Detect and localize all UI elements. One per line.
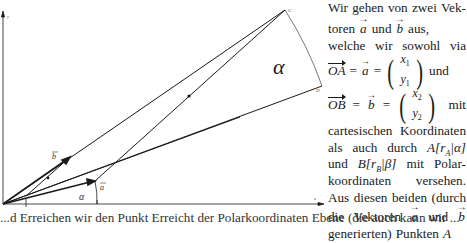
coordinate-axes: [2, 11, 325, 206]
point-c-label: C: [288, 8, 292, 13]
vector-diagram: y x α α C D a b: [0, 0, 330, 219]
right-paren: ): [428, 89, 435, 123]
vector-b-label: b: [52, 152, 56, 161]
vector-ob-symbol: OB: [328, 97, 346, 114]
point-a-polar: A[rA|α]: [427, 140, 466, 157]
marker-points: [47, 94, 191, 179]
body-text-column: Wir gehen von zwei Vek- toren a und b au…: [328, 0, 466, 243]
equation-ob: OB = b = ( x2 y2 ) mit: [328, 89, 466, 123]
midpoint-marker: [187, 94, 190, 97]
text-line-cartesian: cartesischen Koordinaten: [328, 123, 466, 140]
construction-lines: [3, 10, 322, 204]
vector-a: [3, 182, 90, 204]
line-small-to-b-tip: [26, 157, 70, 196]
y-axis-label: y: [6, 14, 10, 19]
vector-a-label: a: [100, 183, 104, 192]
small-midpoint-marker: [47, 177, 50, 180]
vector-b-symbol: b: [395, 21, 404, 38]
angle-alpha-small-label: α: [79, 191, 85, 202]
vector-a-arrowhead-icon: [87, 179, 95, 185]
left-paren: (: [399, 89, 406, 123]
vector-oa-symbol: OA: [328, 63, 346, 80]
left-paren: (: [387, 55, 394, 89]
small-angle-arc: [95, 181, 97, 204]
y-axis-arrow-icon: [2, 11, 5, 17]
text-line-aus: Aus diesen beiden (durch: [328, 190, 466, 207]
text-line-polar-b: und B[rB|β] mit Polar-: [328, 156, 466, 173]
text-line-polar-a: als auch durch A[rA|α]: [328, 140, 466, 157]
text-line-3: welche wir sowohl via: [328, 38, 466, 55]
big-angle-arc: [285, 10, 322, 86]
point-d-label: D: [315, 88, 320, 93]
angle-alpha-label: α: [273, 54, 285, 79]
equation-oa: OA = a = ( x1 y1 ) und: [328, 55, 466, 89]
x-axis-arrow-icon: [318, 203, 324, 206]
line-origin-to-right: [3, 117, 240, 204]
x-axis-ticks: [26, 199, 97, 207]
vector-b: [3, 160, 66, 204]
column-vector-b: x2 y2: [412, 86, 421, 125]
point-b-polar: B[rB|β]: [358, 156, 397, 173]
cut-off-text-line: ...d Erreichen wir den Punkt Erreicht de…: [0, 210, 466, 226]
text-line-generierten: generierten) Punkten A: [328, 226, 466, 243]
text-line-2: toren a und b aus,: [328, 21, 466, 38]
right-paren: ): [416, 55, 423, 89]
x-axis-label: x: [313, 196, 317, 201]
column-vector-a: x1 y1: [400, 52, 409, 91]
text-line-koordinaten: koordinaten versehen.: [328, 173, 466, 190]
vector-a-symbol: a: [359, 21, 368, 38]
